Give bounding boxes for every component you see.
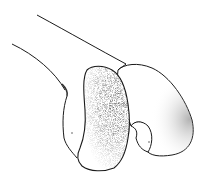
shaft-upper-line xyxy=(37,15,126,64)
left-condyle-shade xyxy=(78,66,130,171)
shaft-lower-line xyxy=(12,44,65,90)
bone-drawing xyxy=(0,0,205,182)
illustration xyxy=(0,0,205,182)
shaft-medial-edge xyxy=(63,96,77,158)
intercondylar-notch xyxy=(131,122,152,152)
dot xyxy=(148,141,149,142)
dot xyxy=(71,132,72,133)
